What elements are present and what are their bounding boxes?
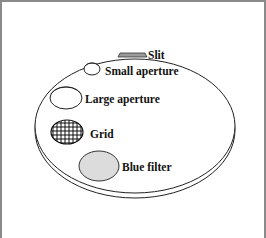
slit-icon	[118, 53, 147, 57]
label-small-aperture: Small aperture	[105, 65, 179, 78]
small-aperture-icon	[84, 63, 100, 75]
label-blue-filter: Blue filter	[122, 161, 172, 173]
blue-filter-icon	[79, 151, 119, 181]
label-slit: Slit	[148, 49, 165, 61]
grid-icon	[51, 120, 83, 144]
label-large-aperture: Large aperture	[85, 93, 160, 106]
diagram-frame: Slit Small aperture Large aperture	[0, 0, 266, 238]
label-grid: Grid	[90, 128, 114, 140]
large-aperture-icon	[50, 87, 82, 109]
filter-wheel-diagram: Slit Small aperture Large aperture	[2, 2, 266, 238]
